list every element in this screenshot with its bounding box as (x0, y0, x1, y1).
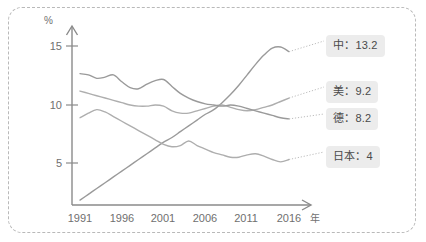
series-line-日本 (80, 110, 289, 162)
x-tick-label-1996: 1996 (110, 212, 134, 224)
leader-lines (289, 41, 324, 160)
x-tick-label-2011: 2011 (234, 212, 258, 224)
legend-chip-japan[interactable]: 日本：4 (326, 146, 380, 168)
leader-line-日本 (289, 152, 324, 160)
leader-line-德 (289, 114, 324, 119)
series-line-美 (80, 91, 289, 113)
leader-line-中 (289, 41, 324, 52)
x-axis-unit-label: 年 (310, 212, 320, 224)
y-axis-unit-label: % (44, 15, 53, 26)
series-layer (80, 47, 289, 200)
x-tick-label-2001: 2001 (151, 212, 175, 224)
x-tick-label-2016: 2016 (277, 212, 301, 224)
legend-chip-china[interactable]: 中：13.2 (326, 35, 385, 57)
x-axis (72, 200, 311, 210)
y-tick-label-5: 5 (56, 157, 62, 169)
leader-line-美 (289, 87, 324, 98)
x-tick-label-2006: 2006 (193, 212, 217, 224)
y-tick-label-15: 15 (50, 40, 62, 52)
legend-chip-usa[interactable]: 美：9.2 (326, 81, 378, 103)
y-axis (66, 26, 78, 205)
legend-chip-germany[interactable]: 德：8.2 (326, 108, 378, 130)
series-line-中 (80, 47, 289, 200)
y-tick-label-10: 10 (50, 99, 62, 111)
chart-figure: 15 10 5 % 1991 1996 2001 2006 2011 2016 … (0, 0, 426, 242)
series-line-德 (80, 74, 289, 119)
x-tick-label-1991: 1991 (68, 212, 92, 224)
